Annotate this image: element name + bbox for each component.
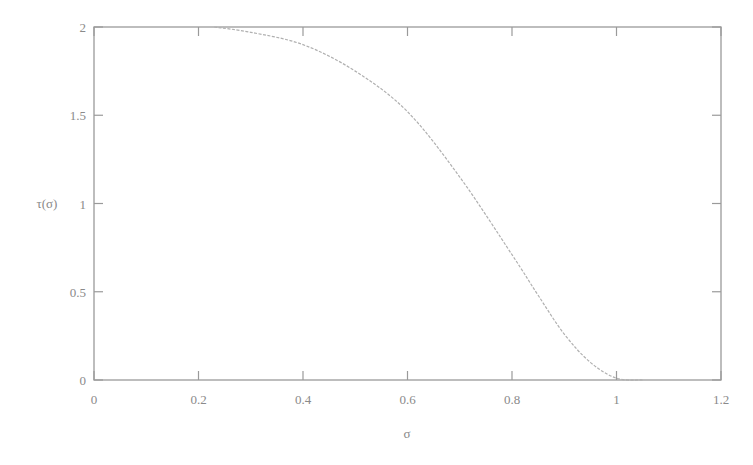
x-axis-label: σ (403, 426, 410, 441)
x-tick-label: 0.8 (504, 392, 520, 407)
y-axis-label: τ(σ) (37, 196, 58, 211)
y-tick-label: 1.5 (70, 108, 86, 123)
y-tick-label: 0.5 (70, 285, 86, 300)
y-tick-label: 1 (80, 197, 87, 212)
x-tick-labels: 00.20.40.60.811.2 (91, 392, 729, 407)
x-tick-label: 0 (91, 392, 98, 407)
y-tick-label: 0 (80, 373, 87, 388)
x-tick-label: 0.6 (399, 392, 416, 407)
data-line (214, 27, 642, 380)
x-tick-label: 1.2 (713, 392, 729, 407)
y-tick-labels: 00.511.52 (70, 20, 86, 388)
chart: 00.20.40.60.811.2 00.511.52 σ τ(σ) (0, 0, 753, 465)
x-tick-label: 1 (613, 392, 620, 407)
x-tick-label: 0.2 (190, 392, 206, 407)
plot-frame (94, 27, 721, 380)
y-tick-label: 2 (80, 20, 87, 35)
axis-ticks (94, 27, 721, 380)
x-tick-label: 0.4 (295, 392, 312, 407)
